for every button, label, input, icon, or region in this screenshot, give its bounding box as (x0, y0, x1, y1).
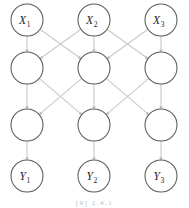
node-x2[interactable]: X2 (78, 4, 110, 36)
edge-h11-to-h22 (39, 78, 81, 113)
node-x3[interactable]: X3 (145, 4, 177, 36)
edge-x2-to-h11 (41, 29, 81, 58)
node-h11[interactable] (11, 52, 43, 84)
edge-h12-to-h21 (40, 78, 82, 113)
node-y2[interactable]: Y2 (78, 160, 110, 192)
edge-x2-to-h13 (107, 29, 147, 58)
edge-h12-to-h23 (106, 78, 148, 113)
node-circle (78, 52, 110, 84)
node-x1[interactable]: X1 (11, 4, 43, 36)
figure-container: X1X2X3Y1Y2Y3 [9] 2.4.1 (0, 0, 189, 208)
node-y1[interactable]: Y1 (11, 160, 43, 192)
node-circle (78, 109, 110, 141)
node-circle (145, 52, 177, 84)
node-h21[interactable] (11, 109, 43, 141)
node-h12[interactable] (78, 52, 110, 84)
node-h23[interactable] (145, 109, 177, 141)
node-h22[interactable] (78, 109, 110, 141)
graph-canvas: X1X2X3Y1Y2Y3 (0, 0, 189, 208)
edge-h13-to-h22 (107, 78, 149, 113)
node-h13[interactable] (145, 52, 177, 84)
edge-x1-to-h12 (40, 29, 80, 58)
node-y3[interactable]: Y3 (145, 160, 177, 192)
node-circle (11, 52, 43, 84)
edge-x3-to-h12 (108, 29, 148, 58)
node-circle (145, 109, 177, 141)
figure-caption: [9] 2.4.1 (0, 199, 189, 207)
node-circle (11, 109, 43, 141)
